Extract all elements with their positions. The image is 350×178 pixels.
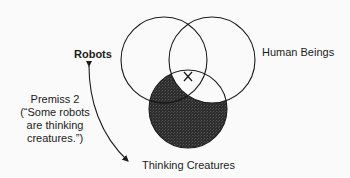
robots-label: Robots <box>74 48 112 61</box>
premiss-annotation: Premiss 2 (“Some robots are thinking cre… <box>16 93 94 145</box>
venn-diagram <box>0 0 350 178</box>
premiss-arrow <box>89 66 128 161</box>
premiss-line: creatures.”) <box>16 132 94 145</box>
premiss-line: are thinking <box>16 119 94 132</box>
human-beings-label: Human Beings <box>262 46 334 59</box>
premiss-line: Premiss 2 <box>16 93 94 106</box>
thinking-creatures-label: Thinking Creatures <box>142 159 235 172</box>
premiss-line: (“Some robots <box>16 106 94 119</box>
